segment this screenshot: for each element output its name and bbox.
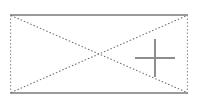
- placeholder-graphic: [10, 14, 188, 94]
- canvas: [0, 0, 202, 102]
- placeholder-interior: [10, 14, 188, 94]
- broken-image-placeholder[interactable]: [10, 14, 188, 94]
